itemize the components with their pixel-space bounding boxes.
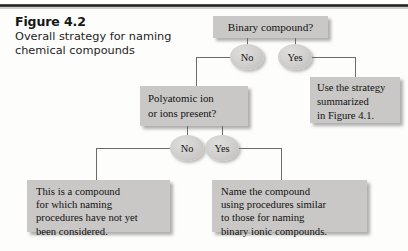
connector-no2-vertical	[96, 148, 97, 181]
connector-no2-horizontal	[96, 148, 172, 149]
node-name-compound-label: Name the compound using procedures simil…	[221, 185, 367, 238]
node-use-strategy-label: Use the strategy summarized in Figure 4.…	[317, 81, 400, 123]
node-name-compound[interactable]: Name the compound using procedures simil…	[212, 180, 367, 232]
branch-no-binary[interactable]: No	[230, 44, 264, 70]
branch-yes-binary[interactable]: Yes	[278, 44, 312, 70]
node-polyatomic-ion[interactable]: Polyatomic ion or ions present?	[140, 86, 248, 126]
node-not-yet-considered-label: This is a compound for which naming proc…	[36, 185, 170, 238]
connector-yes1-vertical	[355, 57, 356, 78]
node-use-strategy[interactable]: Use the strategy summarized in Figure 4.…	[310, 77, 400, 123]
node-binary-compound[interactable]: Binary compound?	[213, 16, 328, 38]
branch-yes-polyatomic-label: Yes	[214, 143, 229, 154]
header-rule-shadow	[0, 7, 408, 9]
figure-caption: Overall strategy for naming chemical com…	[15, 30, 205, 58]
node-polyatomic-ion-label: Polyatomic ion or ions present?	[148, 91, 248, 121]
branch-no-polyatomic[interactable]: No	[170, 135, 204, 161]
connector-no1-vertical	[196, 57, 197, 86]
node-binary-compound-label: Binary compound?	[213, 21, 328, 33]
connector-yes2-horizontal	[237, 148, 281, 149]
figure-label: Figure 4.2	[15, 14, 205, 29]
connector-no1-horizontal	[196, 57, 232, 58]
connector-yes2-vertical	[281, 148, 282, 181]
node-not-yet-considered[interactable]: This is a compound for which naming proc…	[27, 180, 170, 232]
figure-caption-block: Figure 4.2 Overall strategy for naming c…	[15, 14, 205, 58]
figure-container: Figure 4.2 Overall strategy for naming c…	[0, 0, 408, 251]
connector-yes1-horizontal	[310, 57, 355, 58]
branch-yes-polyatomic[interactable]: Yes	[205, 135, 239, 161]
branch-no-polyatomic-label: No	[181, 143, 194, 154]
branch-yes-binary-label: Yes	[287, 52, 302, 63]
branch-no-binary-label: No	[241, 52, 254, 63]
